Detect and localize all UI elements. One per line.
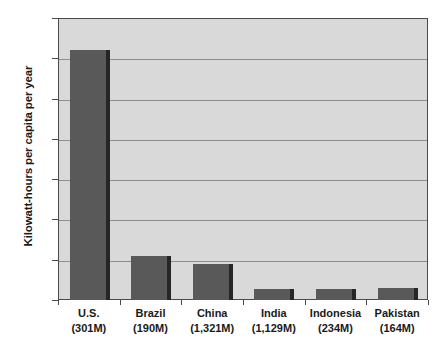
x-tick-mark xyxy=(58,300,59,305)
x-label-population: (1,129M) xyxy=(252,321,296,336)
x-tick-mark xyxy=(428,300,429,305)
x-label-name: Pakistan xyxy=(375,307,420,319)
x-label-name: India xyxy=(261,307,287,319)
bar-slot xyxy=(316,18,356,300)
x-label-brazil: Brazil (190M) xyxy=(133,306,168,336)
x-label-us: U.S. (301M) xyxy=(71,306,106,336)
x-tick-mark xyxy=(120,300,121,305)
bar-china[interactable] xyxy=(193,264,233,300)
x-label-name: China xyxy=(197,307,228,319)
bar-series xyxy=(58,18,428,300)
bar-brazil[interactable] xyxy=(131,256,171,300)
bar-slot xyxy=(70,18,110,300)
bar-slot xyxy=(131,18,171,300)
bar-us[interactable] xyxy=(70,50,110,300)
bar-chart: Kilowatt-hours per capita per year 0 2,0… xyxy=(0,0,443,342)
x-tick-mark xyxy=(181,300,182,305)
x-label-indonesia: Indonesia (234M) xyxy=(310,306,361,336)
x-label-pakistan: Pakistan (164M) xyxy=(375,306,420,336)
x-label-population: (164M) xyxy=(375,321,420,336)
bar-slot xyxy=(193,18,233,300)
x-label-name: Indonesia xyxy=(310,307,361,319)
x-label-population: (234M) xyxy=(310,321,361,336)
x-label-name: U.S. xyxy=(78,307,99,319)
x-tick-mark xyxy=(243,300,244,305)
bar-slot xyxy=(254,18,294,300)
x-label-india: India (1,129M) xyxy=(252,306,296,336)
bar-india[interactable] xyxy=(254,289,294,300)
x-label-population: (190M) xyxy=(133,321,168,336)
x-label-population: (301M) xyxy=(71,321,106,336)
x-tick-mark xyxy=(366,300,367,305)
bar-indonesia[interactable] xyxy=(316,289,356,300)
x-label-china: China (1,321M) xyxy=(190,306,234,336)
bar-pakistan[interactable] xyxy=(378,288,418,300)
x-label-name: Brazil xyxy=(136,307,166,319)
bar-slot xyxy=(378,18,418,300)
x-label-population: (1,321M) xyxy=(190,321,234,336)
x-tick-mark xyxy=(305,300,306,305)
